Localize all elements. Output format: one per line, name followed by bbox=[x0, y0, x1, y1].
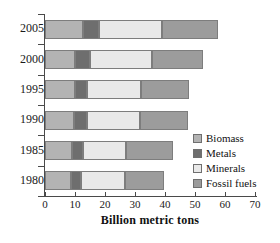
bar-segment bbox=[45, 171, 71, 190]
bar-segment bbox=[45, 111, 74, 130]
y-axis-tick bbox=[38, 166, 45, 167]
y-axis-label-1985: 1985 bbox=[0, 144, 44, 157]
bar-segment bbox=[71, 171, 82, 190]
y-axis-tick bbox=[38, 196, 45, 197]
bar-segment bbox=[87, 111, 140, 130]
y-axis-label-1980: 1980 bbox=[0, 174, 44, 187]
y-axis-label-1990: 1990 bbox=[0, 113, 44, 126]
x-axis-tick-label-60: 60 bbox=[213, 198, 237, 210]
bar-segment bbox=[126, 141, 173, 160]
bar-segment bbox=[81, 171, 125, 190]
y-axis-tick bbox=[38, 75, 45, 76]
legend-item[interactable]: Metals bbox=[193, 146, 279, 160]
bar-segment bbox=[45, 80, 75, 99]
legend-label: Fossil fuels bbox=[206, 177, 256, 189]
x-axis-tick-label-0: 0 bbox=[33, 198, 57, 210]
bar-segment bbox=[45, 141, 72, 160]
x-axis-tick-label-30: 30 bbox=[123, 198, 147, 210]
y-axis-label-2005: 2005 bbox=[0, 22, 44, 35]
bar-segment bbox=[162, 20, 218, 39]
bar-segment bbox=[140, 111, 188, 130]
bar-segment bbox=[74, 111, 88, 130]
x-axis-tick-label-70: 70 bbox=[243, 198, 267, 210]
bar-segment bbox=[141, 80, 189, 99]
legend-item[interactable]: Minerals bbox=[193, 161, 279, 175]
x-axis-tick-label-10: 10 bbox=[63, 198, 87, 210]
bar-segment bbox=[75, 50, 90, 69]
legend-swatch-icon bbox=[193, 164, 202, 173]
legend-label: Metals bbox=[206, 147, 236, 159]
bar-segment bbox=[87, 80, 141, 99]
bar-segment bbox=[90, 50, 152, 69]
stacked-bar-chart: 200520001995199019851980 010203040506070… bbox=[0, 0, 280, 243]
y-axis-tick bbox=[38, 105, 45, 106]
bar-segment bbox=[125, 171, 164, 190]
legend-item[interactable]: Biomass bbox=[193, 131, 279, 145]
x-axis-tick-label-50: 50 bbox=[183, 198, 207, 210]
legend-item[interactable]: Fossil fuels bbox=[193, 176, 279, 190]
legend-label: Minerals bbox=[206, 162, 245, 174]
legend-swatch-icon bbox=[193, 149, 202, 158]
legend-swatch-icon bbox=[193, 179, 202, 188]
bar-segment bbox=[45, 20, 83, 39]
chart-legend: BiomassMetalsMineralsFossil fuels bbox=[193, 131, 279, 191]
y-axis-tick bbox=[38, 135, 45, 136]
y-axis-label-1995: 1995 bbox=[0, 83, 44, 96]
bar-segment bbox=[75, 80, 87, 99]
x-axis-tick bbox=[255, 192, 256, 197]
bar-segment bbox=[83, 20, 100, 39]
y-axis-label-2000: 2000 bbox=[0, 53, 44, 66]
bar-segment bbox=[99, 20, 162, 39]
legend-label: Biomass bbox=[206, 132, 244, 144]
bar-segment bbox=[72, 141, 83, 160]
x-axis-tick-label-20: 20 bbox=[93, 198, 117, 210]
x-axis-title: Billion metric tons bbox=[45, 213, 255, 228]
bar-segment bbox=[83, 141, 127, 160]
bar-segment bbox=[45, 50, 75, 69]
x-axis-tick-label-40: 40 bbox=[153, 198, 177, 210]
bar-segment bbox=[152, 50, 203, 69]
legend-swatch-icon bbox=[193, 134, 202, 143]
y-axis-tick bbox=[38, 44, 45, 45]
y-axis-tick bbox=[38, 14, 45, 15]
